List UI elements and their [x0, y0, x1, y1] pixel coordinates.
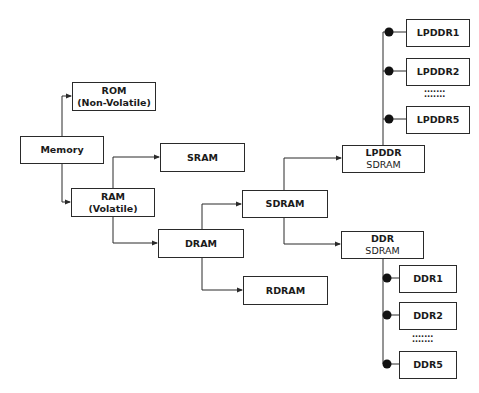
node-label: LPDDR1 — [417, 27, 460, 39]
node-label: DDR1 — [413, 273, 443, 285]
node-sublabel: (Volatile) — [88, 203, 137, 215]
node-sublabel: (Non-Volatile) — [77, 97, 151, 109]
ellipsis-ddr: ·············· — [412, 334, 433, 344]
node-memory: Memory — [20, 136, 104, 164]
node-label: RDRAM — [266, 285, 305, 297]
node-label: SRAM — [187, 152, 218, 164]
bus-node-dot — [383, 274, 392, 283]
ellipsis-lpddr: ·············· — [424, 89, 445, 99]
node-label: RAM — [101, 191, 125, 203]
node-label: ROM — [102, 85, 127, 97]
bus-node-dot — [385, 28, 394, 37]
node-rdram: RDRAM — [243, 276, 328, 305]
node-ddr2: DDR2 — [399, 302, 457, 330]
node-label: LPDDR — [365, 147, 401, 159]
node-label: DDR2 — [413, 310, 443, 322]
node-dram: DRAM — [158, 229, 244, 258]
node-label: SDRAM — [266, 198, 305, 210]
node-ddr-sdram: DDR SDRAM — [341, 231, 424, 259]
node-lpddr5: LPDDR5 — [406, 106, 470, 134]
node-sublabel: SDRAM — [365, 245, 399, 257]
node-label: LPDDR2 — [417, 66, 460, 78]
node-sdram: SDRAM — [242, 190, 328, 218]
node-label: Memory — [40, 144, 83, 156]
node-lpddr-sdram: LPDDR SDRAM — [342, 145, 425, 173]
node-ram: RAM (Volatile) — [71, 188, 155, 217]
node-sram: SRAM — [160, 143, 245, 172]
bus-node-dot — [383, 360, 392, 369]
node-label: DDR — [371, 233, 394, 245]
node-rom: ROM (Non-Volatile) — [72, 82, 156, 111]
bus-node-dot — [383, 311, 392, 320]
node-lpddr1: LPDDR1 — [406, 19, 470, 47]
node-label: LPDDR5 — [417, 114, 460, 126]
bus-node-dot — [385, 115, 394, 124]
node-ddr5: DDR5 — [399, 351, 457, 379]
node-sublabel: SDRAM — [366, 159, 400, 171]
node-lpddr2: LPDDR2 — [406, 58, 470, 86]
bus-node-dot — [385, 67, 394, 76]
node-label: DRAM — [185, 238, 217, 250]
node-ddr1: DDR1 — [399, 265, 457, 293]
node-label: DDR5 — [413, 359, 443, 371]
